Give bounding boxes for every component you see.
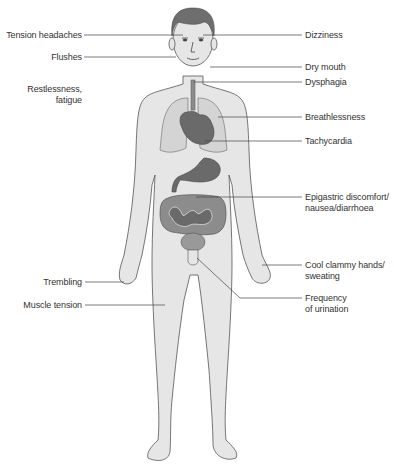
- label-muscle-tension: Muscle tension: [0, 300, 82, 311]
- genitals: [188, 250, 198, 265]
- label-tachycardia: Tachycardia: [305, 136, 352, 147]
- label-restlessness: Restlessness, fatigue: [0, 84, 82, 106]
- trachea: [191, 80, 195, 110]
- label-restlessness-line1: Restlessness,: [0, 84, 82, 95]
- label-frequency: Frequency of urination: [305, 293, 348, 315]
- label-epigastric-line2: nausea/diarrhoea: [305, 203, 389, 214]
- label-cool-hands-line2: sweating: [305, 271, 385, 282]
- label-frequency-line2: of urination: [305, 304, 348, 315]
- label-restlessness-line2: fatigue: [0, 95, 82, 106]
- bladder: [181, 233, 205, 251]
- label-dizziness: Dizziness: [305, 30, 343, 41]
- label-epigastric: Epigastric discomfort/ nausea/diarrhoea: [305, 192, 389, 214]
- label-dry-mouth: Dry mouth: [305, 62, 346, 73]
- label-trembling: Trembling: [0, 277, 82, 288]
- label-cool-hands-line1: Cool clammy hands/: [305, 260, 385, 271]
- label-flushes: Flushes: [0, 52, 82, 63]
- label-dysphagia: Dysphagia: [305, 77, 347, 88]
- label-frequency-line1: Frequency: [305, 293, 348, 304]
- label-cool-hands: Cool clammy hands/ sweating: [305, 260, 385, 282]
- label-epigastric-line1: Epigastric discomfort/: [305, 192, 389, 203]
- label-tension-headaches: Tension headaches: [0, 30, 82, 41]
- label-breathlessness: Breathlessness: [305, 112, 365, 123]
